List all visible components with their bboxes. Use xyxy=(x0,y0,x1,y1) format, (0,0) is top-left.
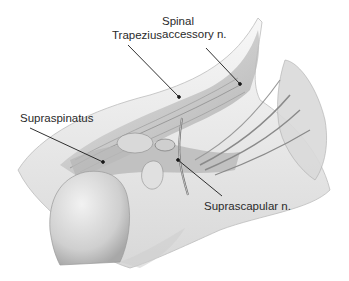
label-suprascapular-nerve: Suprascapular n. xyxy=(204,200,291,213)
label-line: Supraspinatus xyxy=(20,112,94,125)
label-line: Spinal xyxy=(162,15,227,28)
anatomy-illustration: Spinal accessory n. Trapezius Supraspina… xyxy=(0,0,349,281)
shoulder-drawing xyxy=(0,0,349,281)
label-supraspinatus: Supraspinatus xyxy=(20,112,94,125)
label-spinal-accessory-nerve: Spinal accessory n. xyxy=(162,15,227,41)
label-line: accessory n. xyxy=(162,28,227,41)
label-line: Trapezius xyxy=(112,29,162,42)
label-trapezius: Trapezius xyxy=(112,29,162,42)
label-line: Suprascapular n. xyxy=(204,200,291,213)
